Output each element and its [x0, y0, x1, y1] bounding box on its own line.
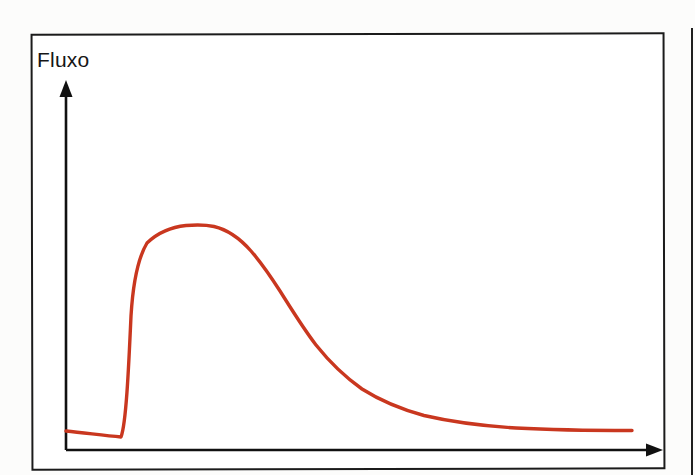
y-axis-label: Fluxo: [37, 48, 89, 72]
adjacent-panel-edge: [691, 28, 693, 475]
figure-root: Fluxo: [0, 0, 695, 475]
figure-frame-border: [31, 32, 666, 470]
